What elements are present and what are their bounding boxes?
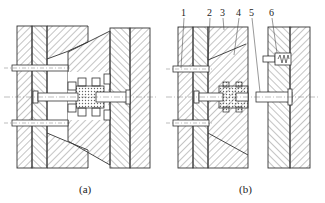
clamp-plate-left-b <box>178 27 193 168</box>
panel-b <box>166 18 320 168</box>
ejector-pin-upper-a <box>4 65 70 71</box>
ejector-pin-lower-b <box>166 120 212 126</box>
caption-b: (b) <box>239 183 252 195</box>
caption-a: (a) <box>79 183 91 195</box>
ejector-pin-lower-a <box>4 120 70 126</box>
callout-1: 1 <box>181 8 186 18</box>
callout-6: 6 <box>269 8 274 18</box>
mold-diagram <box>0 0 325 203</box>
spring-detent-6 <box>263 53 291 65</box>
callout-5: 5 <box>249 8 254 18</box>
ejector-pin-upper-b <box>166 66 212 72</box>
diagram-stage: 1 2 3 4 5 6 (a) (b) <box>0 0 325 203</box>
callout-4: 4 <box>236 8 241 18</box>
callout-2: 2 <box>207 8 212 18</box>
callout-3: 3 <box>220 8 225 18</box>
panel-a <box>4 26 158 168</box>
